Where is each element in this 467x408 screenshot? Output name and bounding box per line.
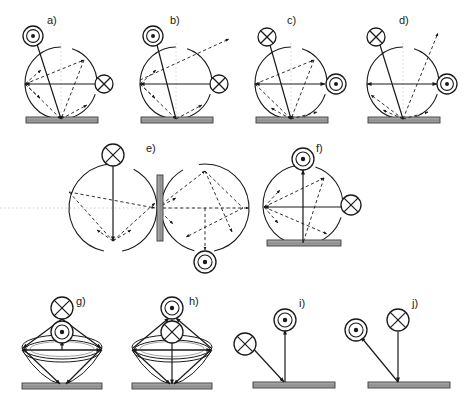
substrate-plate: [26, 117, 98, 123]
panel-a: a): [23, 14, 113, 123]
panel-label-a: a): [47, 14, 57, 26]
circle-arc: [122, 169, 157, 251]
solid-vector-arrow: [36, 41, 61, 119]
circle-arc: [414, 49, 439, 85]
symbol-center-dot: [445, 82, 449, 86]
panel-i: i): [234, 297, 335, 388]
panel-label-b: b): [170, 14, 180, 26]
dashed-vector-arrow: [264, 178, 324, 207]
dashed-vector-arrow: [140, 70, 156, 84]
panel-e: e): [0, 142, 250, 273]
circled-x-icon: [102, 144, 124, 166]
circle-arc: [140, 47, 176, 118]
dashed-vector-arrow: [403, 33, 438, 119]
symbol-center-dot: [334, 82, 338, 86]
circle-arc: [296, 94, 325, 119]
dashed-vector-arrow: [205, 171, 232, 232]
circled-x-icon: [341, 195, 361, 215]
dashed-vector-arrow: [25, 70, 41, 84]
circled-dot-icon: [274, 309, 296, 331]
panel-label-e: e): [146, 142, 156, 154]
solid-vector-arrow: [156, 41, 176, 119]
circled-dot-icon: [143, 26, 163, 46]
panel-h: h): [132, 295, 212, 389]
dashed-vector-arrow: [255, 60, 314, 84]
symbol-center-dot: [283, 318, 287, 322]
symbol-center-dot: [60, 330, 64, 334]
circled-x-icon: [95, 75, 113, 93]
symbol-center-dot: [170, 306, 174, 310]
solid-vector-arrow: [361, 337, 398, 382]
circle-arc: [66, 94, 95, 119]
panel-label-c: c): [287, 14, 296, 26]
panel-c: c): [255, 14, 346, 123]
circled-x-icon: [210, 75, 228, 93]
circled-x-icon: [234, 333, 256, 355]
panel-label-h: h): [189, 295, 199, 307]
solid-vector-arrow: [22, 348, 60, 384]
panels-group: a)b)c)d)e)f)g)h)i)j): [0, 14, 457, 389]
circled-dot-icon: [194, 251, 216, 273]
circle-arc: [302, 49, 327, 85]
dashed-vector-arrow: [69, 192, 155, 208]
circle-arc: [69, 164, 113, 251]
symbol-center-dot: [301, 157, 305, 161]
panel-label-g: g): [76, 295, 86, 307]
panel-label-f: f): [316, 142, 323, 154]
substrate-plate: [141, 117, 213, 123]
circle-arc: [25, 47, 61, 118]
circled-x-icon: [161, 321, 183, 343]
substrate-plate: [256, 117, 328, 123]
substrate-plate: [368, 382, 450, 388]
panel-f: f): [263, 142, 361, 246]
circle-arc: [315, 167, 343, 206]
dashed-vector-arrow: [25, 60, 84, 84]
circled-x-icon: [387, 309, 409, 331]
dashed-vector-arrow: [61, 60, 84, 119]
dashed-vector-arrow: [303, 178, 324, 243]
panel-g: g): [22, 295, 102, 389]
circle-arc: [187, 49, 212, 85]
symbol-center-dot: [31, 34, 35, 38]
panel-label-i: i): [299, 297, 305, 309]
panel-j: j): [345, 297, 450, 388]
substrate-plate: [368, 117, 440, 123]
panel-b: b): [140, 14, 229, 123]
circle-arc: [367, 47, 403, 118]
diagram-svg: a)b)c)d)e)f)g)h)i)j): [0, 0, 467, 408]
solid-vector-arrow: [66, 348, 102, 384]
panel-label-j: j): [411, 297, 418, 309]
circled-dot-icon: [345, 319, 367, 341]
solid-vector-arrow: [380, 45, 403, 119]
dashed-vector-arrow: [264, 190, 280, 207]
circle-arc: [161, 170, 194, 251]
symbol-center-dot: [151, 34, 155, 38]
symbol-center-dot: [203, 260, 207, 264]
solid-vector-arrow: [270, 45, 291, 119]
circled-x-icon: [367, 28, 385, 46]
circled-dot-icon: [437, 74, 457, 94]
dashed-vector-arrow: [113, 203, 155, 241]
symbol-center-dot: [354, 328, 358, 332]
panel-d: d): [367, 14, 457, 123]
circled-dot-icon: [23, 26, 43, 46]
circle-arc: [263, 165, 303, 243]
circled-x-icon: [51, 297, 73, 319]
dashed-vector-arrow: [291, 60, 314, 119]
circled-x-icon: [258, 28, 276, 46]
substrate-plate: [22, 383, 102, 389]
circled-dot-icon: [292, 148, 314, 170]
circle-arc: [72, 49, 97, 85]
dashed-vector-arrow: [205, 171, 243, 208]
panel-label-d: d): [399, 14, 409, 26]
dashed-vector-arrow: [264, 207, 327, 234]
figure-canvas: a)b)c)d)e)f)g)h)i)j): [0, 0, 467, 408]
substrate-plate: [157, 175, 163, 241]
circled-dot-icon: [326, 74, 346, 94]
circle-arc: [181, 94, 210, 119]
dashed-vector-arrow: [186, 208, 243, 237]
substrate-plate: [253, 382, 335, 388]
circled-dot-icon: [51, 321, 73, 343]
dashed-vector-arrow: [157, 171, 205, 208]
dashed-vector-arrow: [113, 230, 131, 241]
